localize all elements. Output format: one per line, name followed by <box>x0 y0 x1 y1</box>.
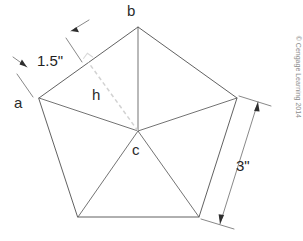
extension-line-at-apothem-foot <box>66 38 82 62</box>
arrowhead-upper-1-5 <box>71 27 79 32</box>
spoke-center-to-bottom-right <box>138 131 199 217</box>
pentagon-figure: b a c h 1.5" 3" © Cengage Learning 2014 <box>0 0 303 241</box>
spoke-center-to-a <box>39 98 138 131</box>
vertex-label-a: a <box>14 95 22 110</box>
arrowhead-lower-1-5 <box>20 60 28 67</box>
extension-line-at-right-vertex <box>239 96 271 106</box>
dimension-label-1-5-inch: 1.5" <box>37 53 63 68</box>
apothem-label-h: h <box>92 87 100 102</box>
dimension-label-3-inch: 3" <box>236 158 250 173</box>
vertex-label-c: c <box>132 142 140 157</box>
extension-line-at-bottom-right-vertex <box>201 219 234 229</box>
spoke-center-to-bottom-left <box>78 131 138 217</box>
pentagon-drawing <box>0 0 303 241</box>
vertex-label-b: b <box>127 3 135 18</box>
arrowhead-bottom-3in <box>219 214 225 224</box>
right-angle-marker <box>83 53 93 59</box>
copyright-credit: © Cengage Learning 2014 <box>295 36 302 118</box>
spoke-center-to-right <box>138 98 237 131</box>
arrowhead-top-3in <box>254 102 260 111</box>
